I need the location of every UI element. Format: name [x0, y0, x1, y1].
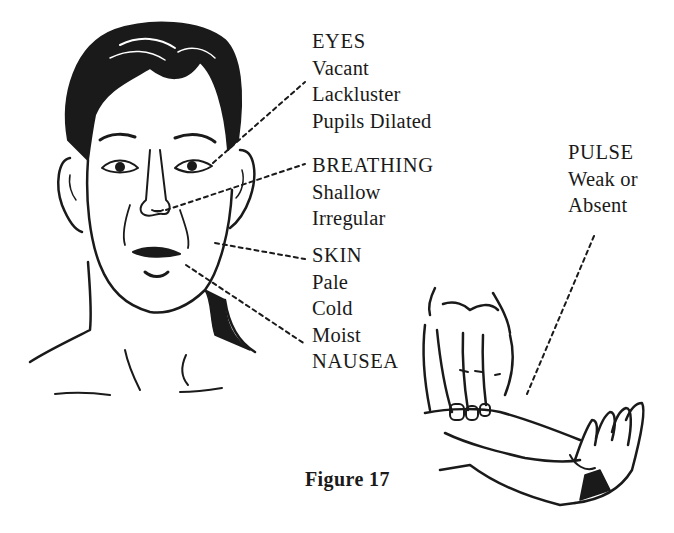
breathing-symptom: Irregular	[312, 205, 434, 232]
skin-heading: SKIN	[312, 242, 399, 269]
breathing-leader	[166, 164, 305, 210]
eyes-symptom: Lackluster	[312, 81, 432, 108]
skin-symptom: Cold	[312, 295, 399, 322]
breathing-symptom: Shallow	[312, 179, 434, 206]
nausea-heading: NAUSEA	[312, 348, 399, 375]
face-drawing	[30, 23, 255, 395]
pulse-leader	[527, 236, 594, 394]
skin-label-group: SKIN Pale Cold Moist NAUSEA	[312, 242, 399, 375]
nausea-leader	[186, 265, 305, 344]
figure-caption: Figure 17	[305, 468, 390, 491]
eyes-heading: EYES	[312, 28, 432, 55]
skin-symptom: Pale	[312, 269, 399, 296]
eyes-symptom: Vacant	[312, 55, 432, 82]
skin-leader	[215, 243, 305, 259]
breathing-label-group: BREATHING Shallow Irregular	[312, 152, 434, 232]
eyes-label-group: EYES Vacant Lackluster Pupils Dilated	[312, 28, 432, 134]
pulse-label-group: PULSE Weak or Absent	[568, 139, 638, 219]
pulse-heading: PULSE	[568, 139, 638, 166]
pulse-symptom: Weak or	[568, 166, 638, 193]
eyes-symptom: Pupils Dilated	[312, 108, 432, 135]
pulse-symptom: Absent	[568, 192, 638, 219]
breathing-heading: BREATHING	[312, 152, 434, 179]
hands-drawing	[424, 288, 644, 505]
skin-symptom: Moist	[312, 322, 399, 349]
